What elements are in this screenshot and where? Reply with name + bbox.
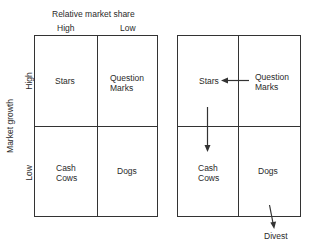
arrow-stars-to-cash-cows-icon bbox=[205, 107, 211, 152]
arrows-layer bbox=[0, 0, 315, 249]
arrow-question-marks-to-stars-icon bbox=[221, 78, 249, 84]
arrow-dogs-to-divest-icon bbox=[270, 205, 277, 229]
